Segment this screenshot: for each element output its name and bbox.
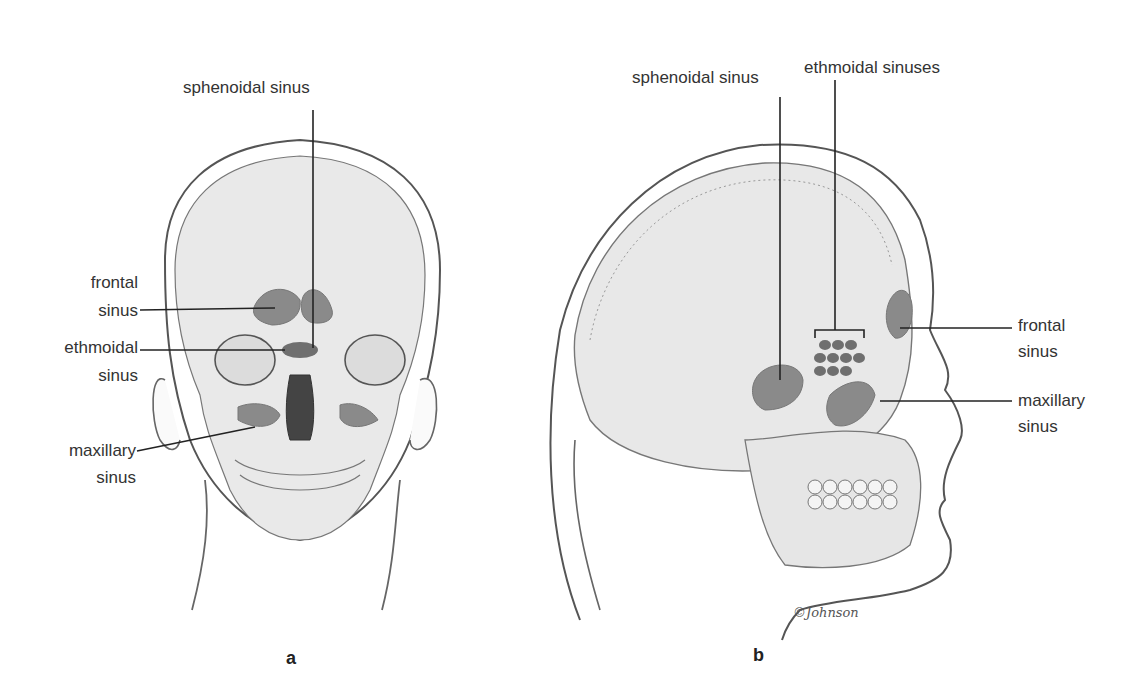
label-b-frontal-sinus-line1: frontal xyxy=(1018,316,1065,336)
label-a-maxillary-sinus-line2: sinus xyxy=(30,468,136,488)
label-b-frontal-sinus-line2: sinus xyxy=(1018,342,1058,362)
panel-letter-b: b xyxy=(753,645,764,666)
label-a-ethmoidal-sinus-line1: ethmoidal xyxy=(30,338,138,358)
label-a-sphenoidal-sinus: sphenoidal sinus xyxy=(183,78,310,98)
label-b-maxillary-sinus-line1: maxillary xyxy=(1018,391,1085,411)
sinus-diagram xyxy=(0,0,1139,695)
label-a-frontal-sinus-line1: frontal xyxy=(70,273,138,293)
label-a-ethmoidal-sinus-line2: sinus xyxy=(30,366,138,386)
lateral-view-drawing xyxy=(550,144,961,640)
label-b-ethmoidal-sinuses: ethmoidal sinuses xyxy=(804,58,940,78)
panel-letter-a: a xyxy=(286,648,296,669)
label-b-maxillary-sinus-line2: sinus xyxy=(1018,417,1058,437)
label-a-maxillary-sinus-line1: maxillary xyxy=(30,441,136,461)
label-b-sphenoidal-sinus: sphenoidal sinus xyxy=(632,68,759,88)
frontal-view-drawing xyxy=(153,140,440,610)
artist-signature: ©Johnson xyxy=(793,603,859,623)
label-a-frontal-sinus-line2: sinus xyxy=(70,301,138,321)
